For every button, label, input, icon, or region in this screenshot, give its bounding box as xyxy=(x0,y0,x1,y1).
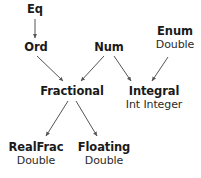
node-enum-class: Enum xyxy=(156,25,194,38)
node-fractional: Fractional xyxy=(40,85,104,98)
edge-enum-integral xyxy=(152,57,168,81)
typeclass-hierarchy-diagram: Eq Ord Num Enum Double Fractional Integr… xyxy=(0,0,201,178)
node-ord: Ord xyxy=(24,41,47,54)
edge-fractional-floating xyxy=(76,101,97,136)
node-floating: Floating Double xyxy=(78,141,131,167)
edge-fractional-realfrac xyxy=(46,101,68,136)
node-integral: Integral Int Integer xyxy=(126,85,183,111)
node-realfrac-class: RealFrac xyxy=(9,141,64,154)
node-fractional-class: Fractional xyxy=(40,85,104,98)
node-enum: Enum Double xyxy=(156,25,194,51)
node-eq: Eq xyxy=(27,3,43,16)
node-realfrac: RealFrac Double xyxy=(9,141,64,167)
node-eq-class: Eq xyxy=(27,3,43,16)
node-floating-class: Floating xyxy=(78,141,131,154)
node-num-class: Num xyxy=(94,41,124,54)
edges xyxy=(35,19,168,136)
edge-num-fractional xyxy=(81,56,104,81)
node-integral-class: Integral xyxy=(126,85,183,98)
edge-ord-fractional xyxy=(37,56,63,81)
node-realfrac-instances: Double xyxy=(9,154,64,167)
node-enum-instances: Double xyxy=(156,38,194,51)
node-integral-instances: Int Integer xyxy=(126,98,183,111)
edge-num-integral xyxy=(114,56,131,81)
node-num: Num xyxy=(94,41,124,54)
node-ord-class: Ord xyxy=(24,41,47,54)
node-floating-instances: Double xyxy=(78,154,131,167)
